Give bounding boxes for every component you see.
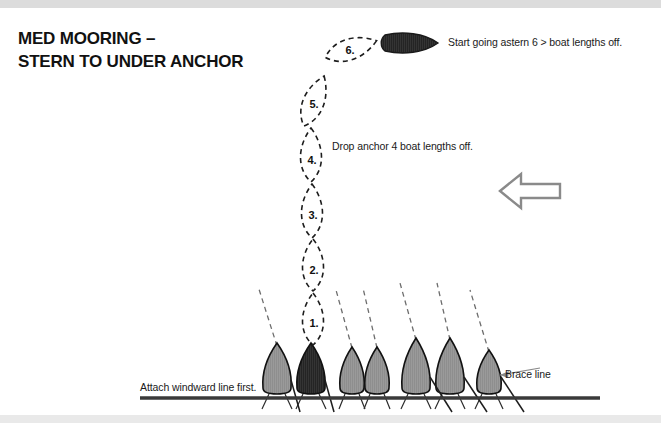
annotation-attach-windward-line: Attach windward line first. <box>140 381 256 393</box>
approach-track-group <box>294 31 380 345</box>
anchor-rode <box>437 283 450 340</box>
anchor-rode <box>363 288 377 348</box>
brace-line-stroke <box>325 380 334 412</box>
diagram-page: MED MOORING – STERN TO UNDER ANCHOR <box>0 0 661 423</box>
anchor-rode <box>336 290 352 348</box>
track-label-1: 1. <box>309 317 318 329</box>
boat-under-way <box>381 33 438 53</box>
annotation-brace-line: Brace line <box>505 368 551 380</box>
moored-boat-hull-dark <box>297 343 325 394</box>
brace-line-stroke <box>501 377 524 412</box>
track-label-4: 4. <box>307 154 316 166</box>
anchor-rode <box>470 290 489 352</box>
moored-boat-hull <box>365 347 389 394</box>
annotation-start-astern: Start going astern 6 > boat lengths off. <box>448 36 622 48</box>
track-label-2: 2. <box>309 264 318 276</box>
diagram-canvas: 1. 2. 3. 4. 5. 6. <box>0 0 661 423</box>
moored-boat-hull <box>436 338 464 394</box>
anchor-rode <box>400 283 416 340</box>
annotation-drop-anchor: Drop anchor 4 boat lengths off. <box>332 140 473 152</box>
moored-boat-hull <box>340 347 364 394</box>
track-label-5: 5. <box>309 98 318 110</box>
anchor-rode <box>258 286 277 346</box>
anchor-rode-group <box>258 283 489 352</box>
wind-direction-arrow <box>500 174 560 208</box>
moored-boat-hull <box>402 338 430 394</box>
moored-boats-group <box>263 338 501 394</box>
moored-boat-hull <box>263 343 291 394</box>
track-label-6: 6. <box>345 44 354 56</box>
moored-boat-hull <box>477 350 501 394</box>
track-label-3: 3. <box>308 209 317 221</box>
